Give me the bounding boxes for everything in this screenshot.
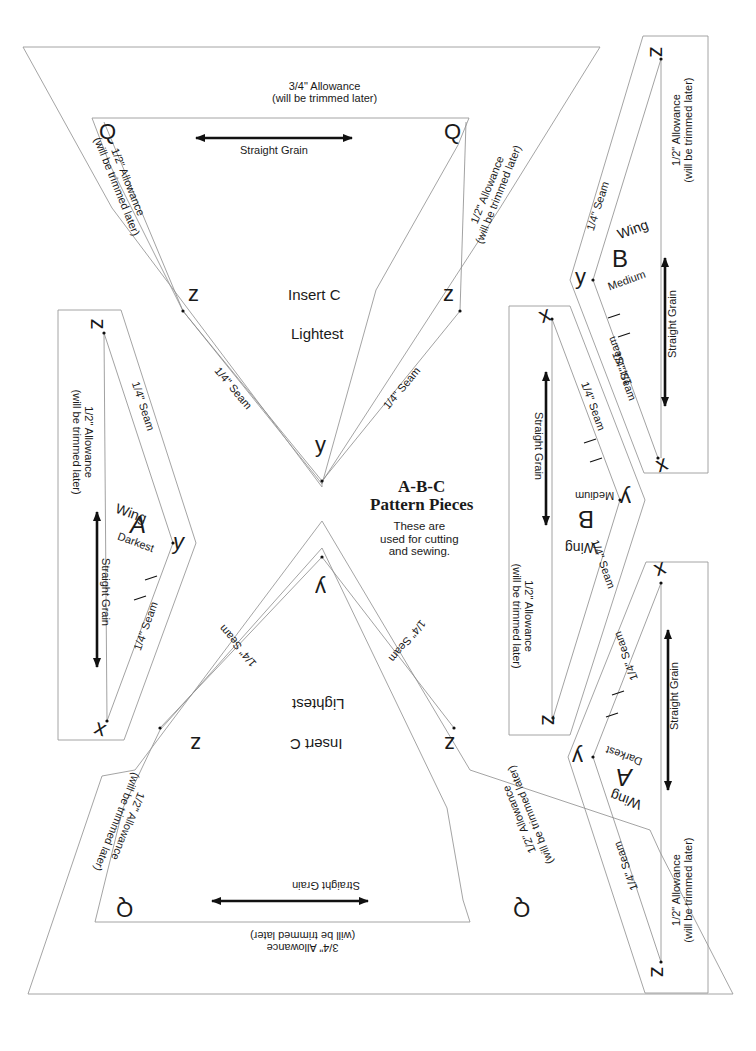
- trimmed-note: (will be trimmed later): [250, 930, 355, 942]
- wing-b-mid-allowance: 1/2" Allowance (will be trimmed later): [510, 564, 534, 669]
- wing-b-top-letter: B: [612, 246, 628, 272]
- wing-a-left-allowance: 1/2" Allowance (will be trimmed later): [70, 390, 94, 495]
- wing-a-bot-corner-y: y: [572, 745, 583, 769]
- grain-label-insert-c-top: Straight Grain: [240, 144, 308, 156]
- allowance-label: 3/4" Allowance: [250, 942, 355, 954]
- allowance-label: 1/2" Allowance: [83, 390, 95, 495]
- wing-b-top-corner-z: z: [644, 47, 668, 58]
- allowance-label: 1/2" Allowance: [523, 564, 535, 669]
- wing-a-left-grain: Straight Grain: [100, 558, 112, 626]
- trimmed-note: (will be trimmed later): [683, 78, 695, 183]
- corner-q-top-right: Q: [444, 120, 461, 144]
- allowance-label: 3/4" Allowance: [272, 80, 377, 92]
- wing-b-mid-corner-y: y: [620, 486, 631, 510]
- wing-b-top-corner-y: y: [575, 265, 586, 289]
- wing-a-left-corner-y: y: [173, 530, 184, 554]
- wing-b-mid-shade: Medium: [575, 490, 614, 502]
- corner-z-bottom-left: z: [190, 732, 201, 756]
- insert-c-top-allowance-34: 3/4" Allowance (will be trimmed later): [272, 80, 377, 104]
- trimmed-note: (will be trimmed later): [272, 92, 377, 104]
- trimmed-note: (will be trimmed later): [510, 564, 522, 669]
- wing-b-mid-letter: B: [578, 506, 594, 532]
- grain-label-insert-c-bottom: Straight Grain: [292, 880, 360, 892]
- corner-q-bottom-left: Q: [116, 897, 133, 921]
- trimmed-note: (will be trimmed later): [683, 838, 695, 943]
- wing-b-top-grain: Straight Grain: [666, 290, 678, 358]
- corner-z-left: z: [188, 282, 199, 306]
- wing-b-mid-corner-z: z: [536, 715, 560, 726]
- trimmed-note: (will be trimmed later): [70, 390, 82, 495]
- insert-c-shade: Lightest: [291, 326, 344, 343]
- insert-c-bottom-shade: Lightest: [292, 695, 345, 712]
- pattern-note: These are used for cutting and sewing.: [380, 520, 459, 558]
- title-line-1: A-B-C: [370, 478, 473, 496]
- title-line-2: Pattern Pieces: [370, 496, 473, 514]
- corner-q-bottom-right: Q: [513, 897, 530, 921]
- wing-a-bot-letter: A: [616, 764, 632, 790]
- wing-b-mid-grain: Straight Grain: [533, 412, 545, 480]
- insert-c-bottom-name: Insert C: [290, 735, 343, 752]
- wing-a-bot-grain: Straight Grain: [668, 662, 680, 730]
- note-line-2: used for cutting: [380, 533, 459, 546]
- corner-y-bottom: y: [315, 576, 326, 600]
- note-line-1: These are: [380, 520, 459, 533]
- corner-y-top: y: [315, 433, 326, 457]
- wing-a-bot-corner-z: z: [645, 967, 669, 978]
- wing-b-top-allowance: 1/2" Allowance (will be trimmed later): [670, 78, 694, 183]
- insert-c-name: Insert C: [288, 287, 341, 304]
- corner-z-right: z: [443, 282, 454, 306]
- corner-z-bottom-right: z: [444, 732, 455, 756]
- allowance-label: 1/2" Allowance: [670, 78, 682, 183]
- insert-c-bottom-allowance-34: 3/4" Allowance (will be trimmed later): [250, 930, 355, 954]
- pattern-title: A-B-C Pattern Pieces: [370, 478, 473, 514]
- insert-c-top-piece: [23, 47, 600, 487]
- wing-a-left-corner-z: z: [85, 319, 109, 330]
- allowance-label: 1/2" Allowance: [670, 838, 682, 943]
- wing-a-left-piece: [58, 310, 196, 740]
- wing-a-bot-allowance: 1/2" Allowance (will be trimmed later): [670, 838, 694, 943]
- note-line-3: and sewing.: [380, 545, 459, 558]
